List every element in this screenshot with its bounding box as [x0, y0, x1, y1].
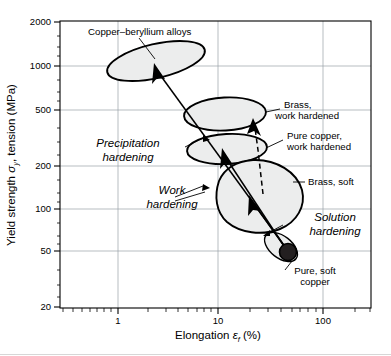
- label-brass-work-hardened-line2: work hardened: [274, 110, 339, 121]
- y-axis-major-ticks: [54, 22, 60, 307]
- yield-strength-vs-elongation-chart: 2000 1000 500 200 100 50 20 1 10 100 Elo…: [0, 0, 391, 356]
- figure-bottom-rule: [0, 354, 391, 355]
- label-pure-soft-copper-line2: copper: [300, 276, 330, 287]
- marker-pure-soft-copper: [280, 244, 297, 261]
- label-pure-copper-work-hardened-line2: work hardened: [286, 141, 351, 152]
- y-axis-title-rest: , tension (MPa): [5, 84, 17, 162]
- label-precipitation-hardening-line1: Precipitation: [96, 137, 159, 149]
- x-axis-title-main: Elongation: [175, 329, 233, 341]
- label-copper-beryllium-alloys: Copper–beryllium alloys: [88, 26, 192, 37]
- y-tick-label-500: 500: [35, 104, 51, 115]
- label-pure-copper-work-hardened-line1: Pure copper,: [287, 130, 342, 141]
- y-tick-label-1000: 1000: [30, 60, 51, 71]
- y-axis-title: Yield strength σy, tension (MPa): [5, 84, 20, 246]
- y-tick-label-20: 20: [40, 301, 51, 312]
- label-pure-soft-copper-line1: Pure, soft: [294, 265, 336, 276]
- x-axis-title-unit: (%): [240, 329, 261, 341]
- y-tick-label-50: 50: [40, 245, 51, 256]
- y-tick-label-100: 100: [35, 203, 51, 214]
- x-axis-title: Elongation εf (%): [175, 329, 261, 344]
- label-brass-work-hardened-line1: Brass,: [284, 99, 311, 110]
- label-work-hardening-line1: Work: [159, 184, 187, 196]
- x-axis-minor-ticks: [63, 308, 370, 312]
- label-solution-hardening-line2: hardening: [309, 225, 361, 237]
- y-axis-title-main: Yield strength: [5, 173, 17, 246]
- x-tick-label-10: 10: [213, 315, 224, 326]
- label-brass-soft: Brass, soft: [308, 176, 354, 187]
- x-tick-label-100: 100: [315, 315, 331, 326]
- y-tick-label-200: 200: [35, 160, 51, 171]
- label-precipitation-hardening-line2: hardening: [102, 151, 154, 163]
- label-work-hardening-line2: hardening: [146, 198, 198, 210]
- chart-figure: 2000 1000 500 200 100 50 20 1 10 100 Elo…: [0, 0, 391, 356]
- y-tick-label-2000: 2000: [30, 16, 51, 27]
- x-axis-tick-labels: 1 10 100: [115, 315, 331, 326]
- label-solution-hardening-line1: Solution: [314, 211, 356, 223]
- y-axis-tick-labels: 2000 1000 500 200 100 50 20: [30, 16, 51, 312]
- x-tick-label-1: 1: [115, 315, 120, 326]
